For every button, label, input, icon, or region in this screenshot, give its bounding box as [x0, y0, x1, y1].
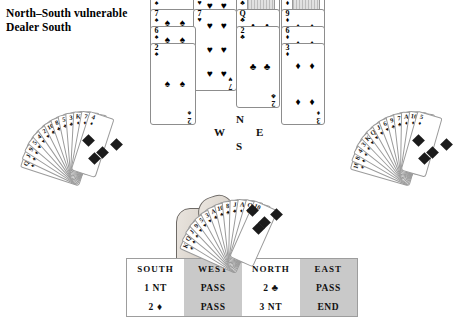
card-corner-index: A♠ [153, 0, 160, 6]
pip: ♣ [250, 62, 257, 72]
pip: ♦ [309, 97, 314, 107]
pip: ♥ [221, 45, 227, 55]
exposed-diamond-pip [110, 138, 123, 151]
pip: ♥ [221, 21, 227, 31]
north-card-diamonds-3: 3♦♦♦♦♦3♦ [281, 43, 325, 125]
card-corner-index: 6♠ [153, 27, 160, 40]
card-corner-index: K♣ [239, 0, 246, 6]
exposed-diamond-pip [440, 138, 453, 151]
pip: ♦ [295, 97, 300, 107]
bidding-row: 1 NTPASS2 ♣PASS [127, 278, 358, 297]
vulnerability-line: North–South vulnerable [6, 6, 127, 20]
bid-level: 2 ♦ [149, 302, 163, 312]
pip: ♦ [309, 61, 314, 71]
bidding-table: SOUTHWESTNORTHEAST1 NTPASS2 ♣PASS2 ♦PASS… [126, 258, 358, 317]
bid-suit-symbol: ♣ [271, 282, 278, 293]
compass-east: E [256, 127, 263, 138]
card-corner-index: 3♦ [284, 44, 291, 57]
bidding-header-south: SOUTH [127, 259, 185, 279]
card-corner-index-mirrored: 2♣ [270, 93, 277, 107]
bid-cell: 2 ♦ [127, 297, 185, 317]
pip: ♥ [207, 45, 213, 55]
deal-header: North–South vulnerable Dealer South [6, 6, 127, 34]
fan-card-index: 4♦ [87, 114, 97, 128]
bid-cell: 3 NT [242, 297, 300, 317]
bid-cell: 2 ♣ [242, 278, 300, 297]
card-corner-index: 7♠ [153, 10, 160, 23]
compass-south: S [236, 141, 242, 152]
north-card-spades-2: 2♠♠♠2♠ [150, 43, 196, 125]
card-corner-index: 2♠ [153, 44, 160, 57]
west-hand-fan[interactable]: Q♠J♠9♠5♥4♥2♥10♣8♣5♣3♣K♦7♦4♦ [12, 96, 122, 176]
card-corner-index: Q♣ [239, 10, 246, 23]
card-corner-index-mirrored: 3♦ [315, 110, 322, 124]
pip: ♦ [295, 61, 300, 71]
east-hand-fan[interactable]: 10♠8♠4♠3♠K♥Q♥J♥6♥9♣7♣A♦10♦5♦ [344, 96, 460, 176]
pip: ♠ [180, 79, 185, 89]
compass-labels: N W E S [214, 114, 270, 154]
card-corner-index: 2♣ [239, 27, 246, 40]
pip: ♣ [264, 62, 271, 72]
bid-cell: END [300, 297, 358, 317]
bid-suit-symbol: ♦ [157, 301, 163, 312]
pip: ♥ [207, 69, 213, 79]
card-corner-index: 9♦ [284, 10, 291, 23]
pip: ♥ [207, 21, 213, 31]
bid-cell: 1 NT [127, 278, 185, 297]
bidding-row: 2 ♦PASS3 NTEND [127, 297, 358, 317]
fan-card-suit: ♦ [416, 120, 424, 127]
card-corner-index-mirrored: 2♠ [186, 110, 193, 124]
north-card-clubs-2: 2♣♣♣2♣ [236, 26, 280, 108]
pip: ♠ [165, 79, 170, 89]
card-corner-index: 8♥ [196, 0, 203, 6]
compass-north: N [236, 114, 244, 125]
bid-cell: PASS [184, 297, 242, 317]
card-corner-index-mirrored: 7♥ [227, 76, 234, 90]
fan-card-suit: ♦ [87, 120, 95, 127]
dealer-line: Dealer South [6, 20, 127, 34]
card-corner-index: K♦ [284, 0, 291, 6]
north-card-hearts-7: 7♥♥♥♥♥♥♥7♥ [193, 9, 237, 91]
card-corner-index: 6♦ [284, 27, 291, 40]
bid-cell: PASS [300, 278, 358, 297]
bid-cell: PASS [184, 278, 242, 297]
fan-card-index: 5♦ [416, 113, 426, 126]
bid-level: 2 ♣ [263, 283, 279, 293]
compass-west: W [214, 127, 225, 138]
card-corner-index: 7♥ [196, 10, 203, 23]
bidding-header-east: EAST [300, 259, 358, 279]
